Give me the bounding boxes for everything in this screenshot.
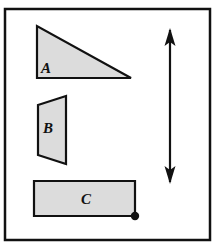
shape-label-c: C	[81, 191, 92, 207]
figure-container: A B C	[0, 0, 219, 251]
shape-group-b: B	[38, 96, 66, 164]
shape-label-a: A	[40, 60, 51, 76]
shape-group-c: C	[34, 181, 135, 216]
geometry-figure: A B C	[0, 0, 219, 251]
vertex-dot	[131, 212, 139, 220]
shape-label-b: B	[42, 120, 53, 136]
